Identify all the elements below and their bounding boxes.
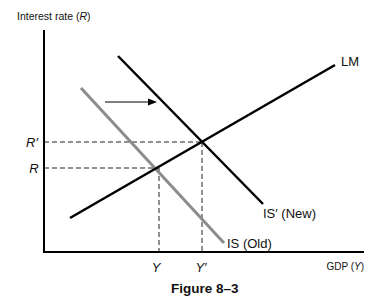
figure-caption: Figure 8–3: [171, 281, 239, 296]
is-old-label: IS (Old): [227, 236, 272, 251]
y-prime-label: Y′: [195, 260, 207, 275]
is-new-curve: [118, 56, 263, 204]
r-label: R: [29, 161, 38, 176]
y-label: Y: [152, 260, 162, 275]
shift-arrow: [105, 99, 157, 106]
lm-label: LM: [341, 54, 359, 69]
is-old-curve: [81, 88, 224, 243]
y-axis-label: Interest rate (R): [17, 10, 91, 22]
r-prime-label: R′: [26, 135, 38, 150]
is-new-label: IS′ (New): [263, 206, 316, 221]
x-axis-label: GDP (Y): [326, 261, 364, 272]
is-lm-diagram: Interest rate (R) R′ R Y Y′ GDP (Y) LM I…: [0, 0, 382, 297]
